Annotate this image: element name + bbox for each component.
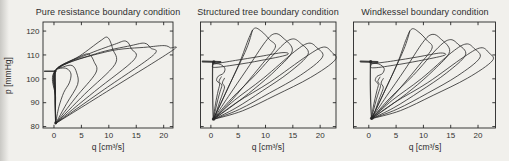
chart-title: Windkessel boundary condition	[345, 7, 505, 18]
x-tick-label: 0	[52, 131, 57, 140]
x-tick-label: 10	[419, 131, 428, 140]
y-axis-label: p [mmHg]	[3, 46, 14, 106]
convergence-dot	[212, 60, 215, 63]
y-tick-label: 80	[31, 122, 40, 131]
panel-structured-tree: 05101520 Structured tree boundary condit…	[180, 0, 340, 161]
structured-tree-plot-canvas: 05101520	[180, 0, 340, 161]
x-tick-label: 5	[236, 131, 241, 140]
figure-pq-loops: 051015208090100110120 Pure resistance bo…	[0, 0, 509, 161]
y-tick-label: 100	[26, 75, 40, 84]
x-tick-label: 20	[474, 131, 483, 140]
y-tick-label: 90	[31, 98, 40, 107]
series-group	[361, 29, 494, 119]
x-axis-label: q [cm³/s]	[228, 142, 308, 153]
panel-pure-resistance: 051015208090100110120 Pure resistance bo…	[0, 0, 180, 161]
x-tick-label: 0	[209, 131, 214, 140]
x-tick-label: 20	[159, 131, 168, 140]
pure-resistance-plot-canvas: 051015208090100110120	[0, 0, 180, 161]
panel-windkessel: 05101520 Windkessel boundary condition q…	[340, 0, 509, 161]
x-tick-label: 15	[132, 131, 141, 140]
convergence-dot	[370, 116, 374, 120]
x-tick-label: 20	[316, 131, 325, 140]
series-pq-loop-3	[54, 37, 117, 123]
x-tick-label: 5	[79, 131, 84, 140]
x-axis-label: q [cm³/s]	[68, 142, 148, 153]
windkessel-plot-canvas: 05101520	[340, 0, 509, 161]
series-group	[203, 28, 336, 119]
series-mean-pressure-marker	[361, 61, 378, 62]
y-tick-label: 110	[27, 51, 40, 60]
x-axis-label: q [cm³/s]	[385, 142, 465, 153]
series-zero-flow-vertical	[370, 63, 371, 119]
series-pq-loop-4	[54, 41, 137, 124]
convergence-dot	[54, 122, 57, 125]
x-tick-label: 5	[394, 131, 399, 140]
series-pq-loop-6	[52, 46, 176, 124]
series-zero-flow-vertical	[213, 63, 214, 120]
x-tick-label: 15	[288, 131, 297, 140]
y-tick-label: 120	[26, 27, 40, 36]
chart-title: Structured tree boundary condition	[188, 7, 348, 18]
convergence-dot	[54, 70, 56, 72]
x-tick-label: 15	[446, 131, 455, 140]
x-tick-label: 10	[261, 131, 270, 140]
series-group	[45, 37, 177, 123]
series-mean-pressure-marker	[203, 62, 221, 63]
chart-title: Pure resistance boundary condition	[28, 7, 188, 18]
convergence-dot	[369, 60, 372, 63]
x-tick-label: 0	[367, 131, 372, 140]
convergence-dot	[212, 117, 216, 121]
x-tick-label: 10	[104, 131, 113, 140]
series-sliver-loop	[212, 53, 288, 68]
